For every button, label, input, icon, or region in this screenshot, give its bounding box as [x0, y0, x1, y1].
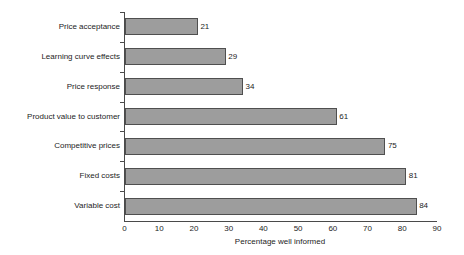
x-tick-label: 0 — [122, 224, 126, 234]
y-axis-tick — [120, 161, 125, 162]
y-axis-tick — [120, 72, 125, 73]
x-tick-label: 10 — [155, 224, 164, 234]
x-tick-label: 50 — [294, 224, 303, 234]
x-tick-label: 20 — [189, 224, 198, 234]
y-axis-tick — [120, 131, 125, 132]
y-axis-tick — [120, 42, 125, 43]
x-axis-title-text: Percentage well informed — [235, 237, 325, 247]
x-tick-label: 80 — [398, 224, 407, 234]
x-tick-label: 90 — [433, 224, 442, 234]
x-tick-label: 70 — [363, 224, 372, 234]
x-tick-labels-layer: 0102030405060708090 — [0, 0, 464, 255]
y-axis-tick — [120, 191, 125, 192]
x-tick-label: 40 — [259, 224, 268, 234]
x-tick-label: 30 — [224, 224, 233, 234]
y-axis-tick — [120, 12, 125, 13]
x-tick-label: 60 — [328, 224, 337, 234]
y-axis-tick — [120, 102, 125, 103]
horizontal-bar-chart: Price acceptanceLearning curve effectsPr… — [0, 0, 464, 255]
